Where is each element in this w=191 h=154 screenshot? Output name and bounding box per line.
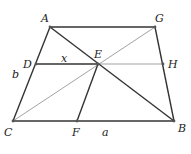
label-g: G <box>155 12 164 25</box>
point-h <box>162 63 165 66</box>
label-x: x <box>61 52 68 65</box>
label-a-length: a <box>102 126 109 139</box>
label-c: C <box>4 126 13 139</box>
point-d <box>35 63 38 66</box>
trapezoid-diagram: A G D E H C F B x a b <box>0 0 191 154</box>
point-c <box>12 120 15 123</box>
diagonal-ab <box>50 27 174 121</box>
diagonal-cg <box>13 27 155 121</box>
point-g <box>154 26 157 29</box>
point-b <box>173 120 176 123</box>
label-d: D <box>22 58 32 71</box>
point-a <box>49 26 52 29</box>
label-b: B <box>177 122 186 135</box>
label-f: F <box>71 126 80 139</box>
point-e <box>96 62 99 65</box>
point-f <box>76 120 79 123</box>
side-gb <box>155 27 174 121</box>
label-e: E <box>93 48 102 61</box>
segment-ef <box>77 64 98 121</box>
label-h: H <box>167 58 178 71</box>
label-a: A <box>40 12 49 25</box>
label-b-length: b <box>12 68 19 81</box>
